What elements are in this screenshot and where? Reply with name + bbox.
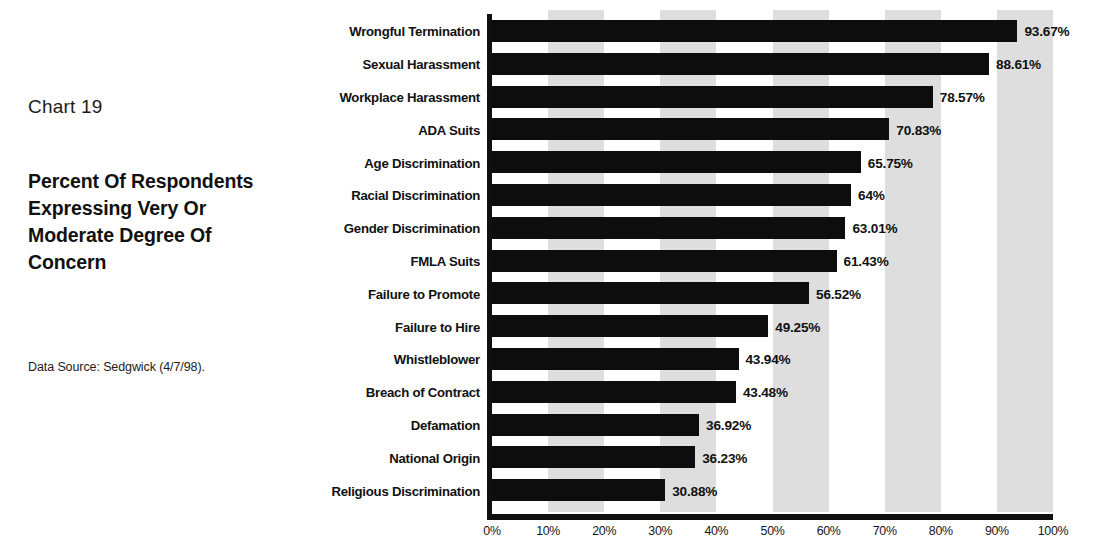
bar-value-label: 70.83%	[896, 122, 941, 137]
category-label: Defamation	[411, 417, 480, 432]
category-label: ADA Suits	[418, 122, 480, 137]
x-tick-label: 0%	[483, 524, 500, 538]
bar-row: FMLA Suits61.43%	[492, 245, 1053, 278]
bar	[492, 151, 861, 173]
x-tick-label: 90%	[985, 524, 1009, 538]
x-tick-label: 70%	[873, 524, 897, 538]
bar	[492, 53, 989, 75]
bar	[492, 20, 1017, 42]
bar	[492, 184, 851, 206]
category-label: Failure to Promote	[368, 286, 480, 301]
category-label: Breach of Contract	[366, 385, 480, 400]
bar-row: Failure to Hire49.25%	[492, 310, 1053, 343]
bar-row: Racial Discrimination64%	[492, 179, 1053, 212]
bar-row: Wrongful Termination93.67%	[492, 15, 1053, 48]
bar-row: Age Discrimination65.75%	[492, 146, 1053, 179]
bar	[492, 414, 699, 436]
bar-value-label: 64%	[858, 188, 885, 203]
x-axis-ticks: 0%10%20%30%40%50%60%70%80%90%100%	[492, 524, 1053, 548]
x-tick-label: 40%	[704, 524, 728, 538]
bar-row: Religious Discrimination30.88%	[492, 474, 1053, 507]
bar-value-label: 88.61%	[996, 57, 1041, 72]
bar	[492, 250, 837, 272]
data-source-note: Data Source: Sedgwick (4/7/98).	[28, 360, 205, 374]
x-tick-label: 20%	[592, 524, 616, 538]
chart-title: Percent Of Respondents Expressing Very O…	[28, 168, 278, 276]
category-label: Whistleblower	[394, 352, 480, 367]
bar-value-label: 56.52%	[816, 286, 861, 301]
category-label: Gender Discrimination	[344, 221, 480, 236]
bar	[492, 381, 736, 403]
bar-chart: Wrongful Termination93.67%Sexual Harassm…	[300, 0, 1096, 554]
bar-value-label: 78.57%	[940, 89, 985, 104]
bar-value-label: 36.92%	[706, 417, 751, 432]
category-label: FMLA Suits	[410, 253, 480, 268]
caption-panel: Chart 19 Percent Of Respondents Expressi…	[0, 0, 300, 554]
bar	[492, 217, 845, 239]
x-tick-label: 50%	[761, 524, 785, 538]
x-tick-label: 30%	[648, 524, 672, 538]
bar-value-label: 61.43%	[844, 253, 889, 268]
bar-value-label: 63.01%	[852, 221, 897, 236]
bar	[492, 315, 768, 337]
bar	[492, 479, 665, 501]
bar-row: Workplace Harassment78.57%	[492, 81, 1053, 114]
bar-value-label: 93.67%	[1024, 24, 1069, 39]
x-tick-label: 10%	[536, 524, 560, 538]
x-tick-label: 80%	[929, 524, 953, 538]
category-label: National Origin	[389, 450, 480, 465]
bar	[492, 348, 739, 370]
bar-value-label: 43.94%	[746, 352, 791, 367]
bar-row: Breach of Contract43.48%	[492, 376, 1053, 409]
plot-area: Wrongful Termination93.67%Sexual Harassm…	[492, 10, 1053, 512]
bar	[492, 86, 933, 108]
bar-value-label: 65.75%	[868, 155, 913, 170]
category-label: Religious Discrimination	[331, 483, 480, 498]
bar-row: ADA Suits70.83%	[492, 113, 1053, 146]
bar-row: Sexual Harassment88.61%	[492, 48, 1053, 81]
bar-value-label: 30.88%	[672, 483, 717, 498]
category-label: Workplace Harassment	[339, 89, 480, 104]
category-label: Wrongful Termination	[349, 24, 480, 39]
x-tick-label: 100%	[1038, 524, 1069, 538]
bar	[492, 446, 695, 468]
category-label: Failure to Hire	[395, 319, 480, 334]
x-tick-label: 60%	[817, 524, 841, 538]
bar-row: Gender Discrimination63.01%	[492, 212, 1053, 245]
category-label: Racial Discrimination	[351, 188, 480, 203]
category-label: Sexual Harassment	[363, 57, 480, 72]
x-axis-line	[487, 514, 1053, 520]
bar-value-label: 43.48%	[743, 385, 788, 400]
bar-row: National Origin36.23%	[492, 441, 1053, 474]
category-label: Age Discrimination	[364, 155, 480, 170]
chart-number: Chart 19	[28, 96, 102, 118]
bar-row: Defamation36.92%	[492, 409, 1053, 442]
bar	[492, 118, 889, 140]
bar-row: Whistleblower43.94%	[492, 343, 1053, 376]
bar-row: Failure to Promote56.52%	[492, 277, 1053, 310]
bar	[492, 282, 809, 304]
bar-value-label: 36.23%	[702, 450, 747, 465]
bar-value-label: 49.25%	[775, 319, 820, 334]
